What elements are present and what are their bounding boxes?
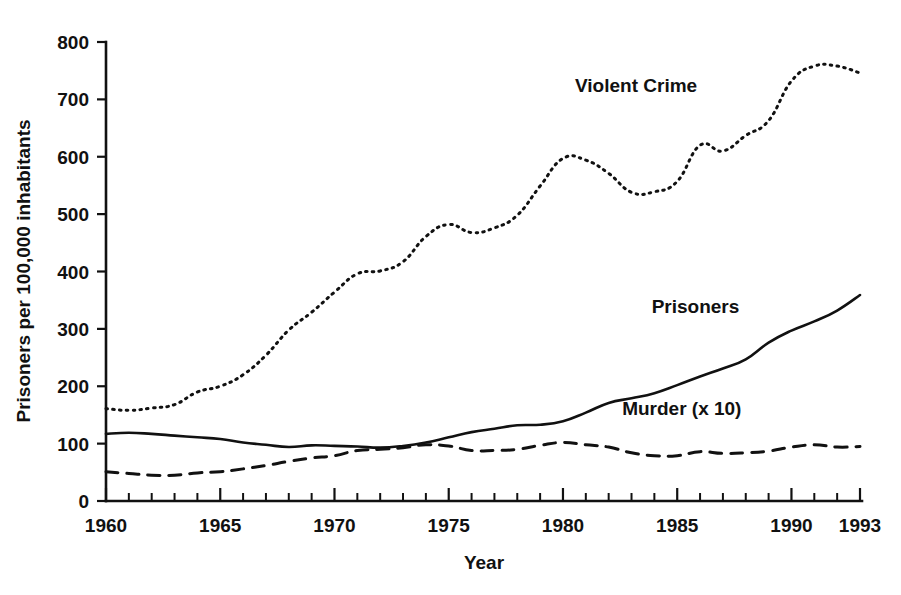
y-axis-title: Prisoners per 100,000 inhabitants	[13, 119, 34, 422]
x-tick-label-1993: 1993	[839, 515, 881, 536]
y-tick-label-200: 200	[57, 376, 89, 397]
series-label-murder-x-10: Murder (x 10)	[622, 398, 741, 419]
violent-crime-prisoners-murder-chart: 0100200300400500600700800 19601965197019…	[0, 0, 901, 595]
y-tick-group: 0100200300400500600700800	[57, 32, 107, 512]
x-axis-title: Year	[464, 552, 505, 573]
y-tick-label-500: 500	[57, 204, 89, 225]
y-tick-label-0: 0	[78, 491, 89, 512]
series-label-violent-crime: Violent Crime	[575, 75, 697, 96]
y-tick-label-300: 300	[57, 319, 89, 340]
y-tick-label-100: 100	[57, 434, 89, 455]
x-tick-group: 19601965197019751980198519901993	[85, 488, 881, 536]
x-tick-label-1985: 1985	[656, 515, 699, 536]
x-tick-label-1975: 1975	[428, 515, 471, 536]
x-tick-label-1980: 1980	[542, 515, 584, 536]
x-tick-label-1970: 1970	[313, 515, 355, 536]
axes-group	[106, 42, 862, 501]
y-tick-label-700: 700	[57, 89, 89, 110]
series-label-prisoners: Prisoners	[652, 296, 740, 317]
y-tick-label-600: 600	[57, 147, 89, 168]
x-tick-label-1960: 1960	[85, 515, 127, 536]
y-tick-label-800: 800	[57, 32, 89, 53]
y-tick-label-400: 400	[57, 262, 89, 283]
x-tick-label-1965: 1965	[199, 515, 242, 536]
series-line-prisoners	[106, 295, 860, 448]
series-label-group: Violent CrimePrisonersMurder (x 10)	[575, 75, 741, 418]
x-tick-label-1990: 1990	[770, 515, 812, 536]
series-group	[106, 64, 860, 475]
series-line-murder-x-10	[106, 442, 860, 475]
chart-canvas: 0100200300400500600700800 19601965197019…	[0, 0, 901, 595]
